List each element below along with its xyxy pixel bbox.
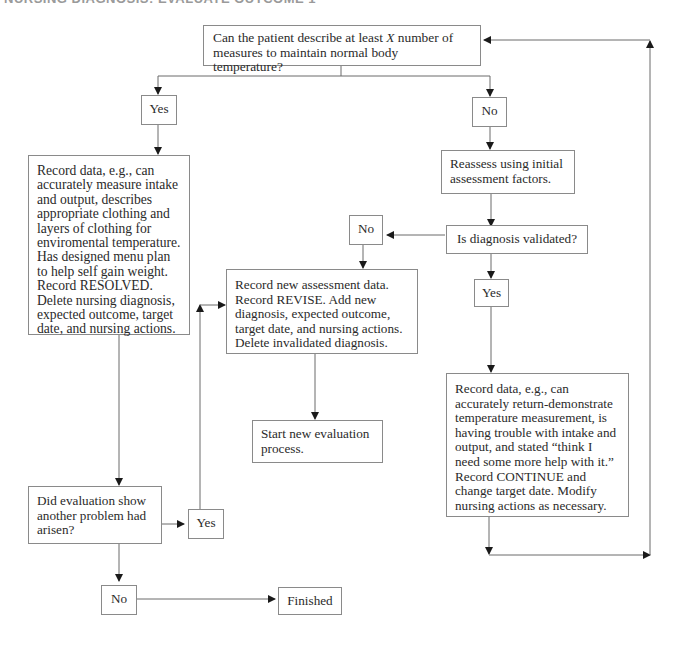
yes-box-top: Yes (141, 95, 177, 125)
yes-box-mid: Yes (474, 279, 509, 307)
another-problem-question-box: Did evaluation show another problem had … (28, 486, 162, 544)
question-box: Can the patient describe at least X numb… (203, 25, 481, 66)
continue-box: Record data, e.g., can accurately return… (446, 373, 629, 517)
validated-question-box: Is diagnosis validated? (446, 225, 588, 254)
yes-box-bottom: Yes (188, 509, 224, 539)
start-new-evaluation-box: Start new evaluation process. (252, 420, 383, 463)
revise-box: Record new assessment data. Record REVIS… (226, 269, 418, 354)
reassess-box: Reassess using initial assessment factor… (441, 150, 575, 194)
resolved-box: Record data, e.g., can accurately measur… (28, 155, 190, 335)
no-box-mid: No (349, 215, 383, 245)
finished-box: Finished (278, 587, 342, 615)
no-box-bottom: No (101, 585, 137, 615)
no-box-top: No (472, 97, 507, 127)
